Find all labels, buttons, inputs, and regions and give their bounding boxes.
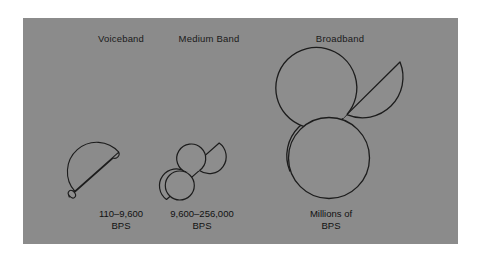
caption-line-1: Millions of — [261, 208, 401, 220]
cylinder-medium — [159, 143, 226, 200]
cylinder-small — [67, 142, 119, 199]
caption-line-2: BPS — [261, 220, 401, 232]
column-title-medium-band: Medium Band — [149, 33, 269, 44]
caption-line-1: 9,600–256,000 — [122, 208, 282, 220]
cylinder-large — [276, 47, 403, 198]
caption-line-2: BPS — [122, 220, 282, 232]
gray-panel: Voiceband Medium Band Broadband 110–9,60… — [23, 18, 458, 244]
column-caption-medium-band: 9,600–256,000 BPS — [122, 208, 282, 232]
column-caption-broadband: Millions of BPS — [261, 208, 401, 232]
column-title-broadband: Broadband — [275, 33, 405, 44]
figure-root: Voiceband Medium Band Broadband 110–9,60… — [0, 0, 481, 258]
